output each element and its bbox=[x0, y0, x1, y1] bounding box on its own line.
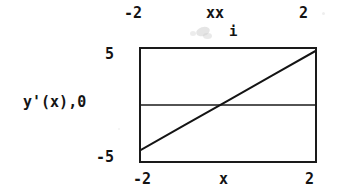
scan-smudge-artifact bbox=[195, 25, 211, 38]
x-axis-bottom-tick-left: -2 bbox=[133, 172, 151, 187]
y-axis-tick-top: 5 bbox=[105, 47, 114, 62]
scan-smudge-artifact bbox=[190, 31, 196, 36]
chart-figure: -2 xx i 2 5 y'(x),0 -5 -2 x 2 bbox=[0, 0, 345, 196]
y-axis-tick-middle: 0 bbox=[77, 93, 86, 111]
y-axis-label-text: y'(x), bbox=[23, 93, 77, 111]
data-series-line bbox=[141, 51, 315, 150]
x-axis-top-label-subscript: i bbox=[229, 24, 237, 39]
scan-speck-artifact bbox=[118, 128, 120, 130]
x-axis-top-label: xx bbox=[206, 6, 224, 21]
y-axis-label: y'(x),0 bbox=[23, 95, 86, 110]
x-axis-bottom-tick-right: 2 bbox=[305, 172, 314, 187]
plot-canvas bbox=[141, 49, 315, 161]
scan-smudge-artifact bbox=[203, 33, 212, 39]
x-axis-top-tick-left: -2 bbox=[124, 6, 142, 21]
x-axis-bottom-label: x bbox=[219, 172, 228, 187]
plot-area bbox=[139, 47, 317, 163]
x-axis-top-tick-right: 2 bbox=[299, 6, 308, 21]
y-axis-tick-bottom: -5 bbox=[96, 150, 114, 165]
scan-speck-artifact bbox=[322, 12, 325, 15]
